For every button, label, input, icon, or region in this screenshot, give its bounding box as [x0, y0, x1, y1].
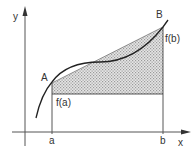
fa-label: f(a)	[56, 98, 71, 108]
y-axis-arrow-icon	[23, 6, 28, 16]
tick-b-label: b	[160, 136, 166, 146]
function-diagram	[0, 0, 195, 155]
x-axis-label: x	[178, 138, 183, 148]
fb-label: f(b)	[165, 34, 180, 44]
point-b-label: B	[156, 10, 163, 20]
shaded-area	[52, 27, 163, 94]
tick-a-label: a	[49, 136, 55, 146]
x-axis-arrow-icon	[181, 130, 191, 135]
y-axis-label: y	[13, 12, 18, 22]
point-a-label: A	[41, 73, 48, 83]
